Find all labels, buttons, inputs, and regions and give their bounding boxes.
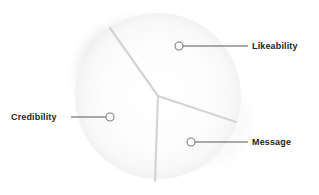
likeability-marker[interactable] <box>175 42 183 50</box>
likeability-label: Likeability <box>252 42 298 51</box>
credibility-label: Credibility <box>11 113 57 122</box>
pie-chart-graphic <box>0 0 319 195</box>
credibility-marker[interactable] <box>106 113 114 121</box>
diagram-canvas: Likeability Message Credibility <box>0 0 319 195</box>
message-label: Message <box>252 138 291 147</box>
message-marker[interactable] <box>187 138 195 146</box>
